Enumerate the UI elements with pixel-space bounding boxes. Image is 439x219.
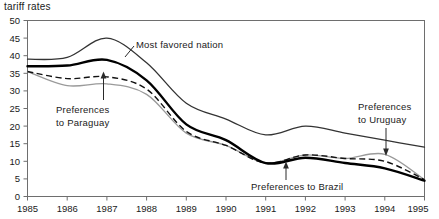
x-tick-label: 1989 xyxy=(176,203,197,214)
x-tick-label: 1987 xyxy=(96,203,117,214)
y-tick-label: 0 xyxy=(15,191,20,202)
y-tick-label: 50 xyxy=(9,15,20,26)
paraguay-arrow-head xyxy=(101,72,107,79)
y-tick-label: 5 xyxy=(15,173,20,184)
x-tick-label: 1992 xyxy=(295,203,316,214)
annotation-leaders xyxy=(101,46,389,180)
x-tick-label: 1988 xyxy=(136,203,157,214)
y-tick-label: 25 xyxy=(9,103,20,114)
y-tick-label: 40 xyxy=(9,50,20,61)
x-tick-label: 1985 xyxy=(17,203,38,214)
y-tick-label: 10 xyxy=(9,156,20,167)
annotation-texts: Most favored nation Preferences to Parag… xyxy=(56,39,411,192)
x-tick-label: 1986 xyxy=(57,203,78,214)
x-tick-label: 1990 xyxy=(215,203,236,214)
x-axis-ticks xyxy=(28,197,425,201)
annotation-preferences-to-uruguay-line2: to Uruguay xyxy=(358,114,407,125)
y-tick-label: 45 xyxy=(9,33,20,44)
y-tick-label: 15 xyxy=(9,138,20,149)
series-line-most-favored-nation xyxy=(28,38,425,147)
annotation-preferences-to-paraguay-line1: Preferences xyxy=(56,104,109,115)
x-tick-label: 1995 xyxy=(407,203,428,214)
y-axis-labels: 50 45 40 35 30 25 20 15 10 5 0 xyxy=(9,15,20,202)
x-tick-label: 1991 xyxy=(255,203,276,214)
tariff-rates-line-chart: 50 45 40 35 30 25 20 15 10 5 0 xyxy=(0,0,439,219)
y-tick-label: 20 xyxy=(9,121,20,132)
chart-figure: tariff rates 50 45 40 35 30 25 20 xyxy=(0,0,439,219)
y-tick-label: 30 xyxy=(9,85,20,96)
x-tick-label: 1993 xyxy=(335,203,356,214)
y-axis-ticks xyxy=(24,21,28,197)
annotation-preferences-to-brazil: Preferences to Brazil xyxy=(251,181,343,192)
x-tick-label: 1994 xyxy=(374,203,395,214)
y-tick-label: 35 xyxy=(9,68,20,79)
x-axis-labels: 1985 1986 1987 1988 1989 1990 1991 1992 … xyxy=(17,203,429,214)
annotation-preferences-to-paraguay-line2: to Paraguay xyxy=(56,117,109,128)
annotation-preferences-to-uruguay-line1: Preferences xyxy=(358,101,411,112)
annotation-most-favored-nation: Most favored nation xyxy=(136,39,223,50)
